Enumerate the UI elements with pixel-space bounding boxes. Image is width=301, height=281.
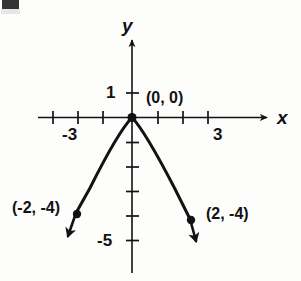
x-tick-label-3: 3 (213, 126, 222, 143)
point-marker-right (187, 216, 195, 224)
figure-canvas: y x 1 -5 -3 3 (0, 0) (-2, -4) (2, -4) (0, 0, 301, 281)
y-axis-label: y (122, 16, 133, 35)
y-tick-label-1: 1 (106, 84, 115, 101)
x-axis-group (38, 111, 267, 124)
point-marker-vertex (127, 113, 136, 122)
right-point-label: (2, -4) (206, 206, 249, 222)
left-point-label: (-2, -4) (12, 200, 60, 216)
graph-plot (0, 0, 301, 281)
x-tick-label-neg3: -3 (62, 126, 77, 143)
parabola-curve-left (76, 118, 132, 214)
x-axis-label: x (277, 108, 288, 127)
point-marker-left (73, 210, 81, 218)
parabola-curve-right (132, 118, 190, 220)
y-tick-label-neg5: -5 (97, 232, 112, 249)
y-axis-group (126, 40, 139, 273)
vertex-point-label: (0, 0) (146, 90, 183, 106)
